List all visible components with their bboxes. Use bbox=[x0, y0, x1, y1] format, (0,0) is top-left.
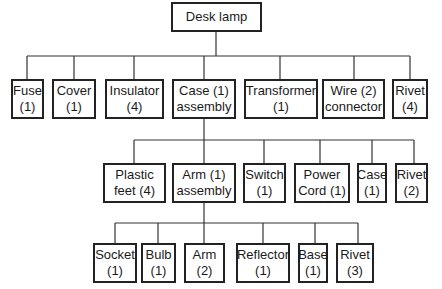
node-rivet-2: Rivet (2) bbox=[395, 163, 428, 203]
node-label: Bulb bbox=[145, 247, 171, 263]
node-label: Transformer bbox=[246, 83, 316, 99]
node-label: Rivet bbox=[340, 247, 370, 263]
node-quantity: (1) bbox=[257, 183, 273, 199]
node-quantity: (1) bbox=[107, 263, 123, 279]
node-case-assembly: Case (1) assembly bbox=[172, 79, 236, 119]
node-quantity: (1) bbox=[66, 99, 82, 115]
node-base: Base (1) bbox=[298, 243, 328, 283]
node-quantity: (4) bbox=[402, 99, 418, 115]
node-desk-lamp: Desk lamp bbox=[171, 2, 262, 32]
node-label: Desk lamp bbox=[186, 9, 247, 25]
node-label: Rivet bbox=[395, 83, 425, 99]
node-quantity: (1) bbox=[364, 183, 380, 199]
node-label: Arm bbox=[193, 247, 217, 263]
node-label: Reflector bbox=[237, 247, 289, 263]
node-case: Case (1) bbox=[357, 163, 387, 203]
node-label: Case bbox=[357, 167, 387, 183]
node-quantity: (4) bbox=[127, 99, 143, 115]
node-quantity: (2) bbox=[404, 183, 420, 199]
node-arm-assembly: Arm (1) assembly bbox=[172, 163, 236, 203]
node-label: Rivet bbox=[397, 167, 427, 183]
node-quantity: (1) bbox=[305, 263, 321, 279]
node-socket: Socket (1) bbox=[93, 243, 137, 283]
node-label-2: assembly bbox=[177, 183, 232, 199]
node-label: Wire (2) bbox=[330, 83, 376, 99]
node-label-2: assembly bbox=[177, 99, 232, 115]
node-bulb: Bulb (1) bbox=[141, 243, 176, 283]
node-cover: Cover (1) bbox=[52, 79, 96, 119]
node-rivet-3: Rivet (3) bbox=[336, 243, 374, 283]
node-label-2: feet (4) bbox=[114, 183, 155, 199]
node-arm: Arm (2) bbox=[184, 243, 225, 283]
node-label: Switch bbox=[245, 167, 283, 183]
node-quantity: (3) bbox=[347, 263, 363, 279]
node-rivet-4: Rivet (4) bbox=[392, 79, 428, 119]
node-quantity: (1) bbox=[255, 263, 271, 279]
node-label: Insulator bbox=[110, 83, 160, 99]
node-label: Arm (1) bbox=[182, 167, 225, 183]
node-fuse: Fuse (1) bbox=[11, 79, 44, 119]
node-label-2: Cord (1) bbox=[298, 183, 346, 199]
node-quantity: (1) bbox=[151, 263, 167, 279]
node-plastic-feet: Plastic feet (4) bbox=[103, 163, 166, 203]
node-wire-connector: Wire (2) connector bbox=[322, 79, 385, 119]
node-label-2: connector bbox=[325, 99, 382, 115]
node-reflector: Reflector (1) bbox=[236, 243, 290, 283]
node-label: Fuse bbox=[13, 83, 42, 99]
node-transformer: Transformer (1) bbox=[244, 79, 318, 119]
node-label: Socket bbox=[95, 247, 135, 263]
node-label: Power bbox=[304, 167, 341, 183]
node-label: Cover bbox=[57, 83, 92, 99]
node-quantity: (2) bbox=[197, 263, 213, 279]
node-label: Base bbox=[298, 247, 328, 263]
node-switch: Switch (1) bbox=[243, 163, 286, 203]
node-quantity: (1) bbox=[273, 99, 289, 115]
node-quantity: (1) bbox=[20, 99, 36, 115]
node-label: Plastic bbox=[115, 167, 153, 183]
node-insulator: Insulator (4) bbox=[105, 79, 164, 119]
node-label: Case (1) bbox=[179, 83, 229, 99]
node-power-cord: Power Cord (1) bbox=[294, 163, 350, 203]
